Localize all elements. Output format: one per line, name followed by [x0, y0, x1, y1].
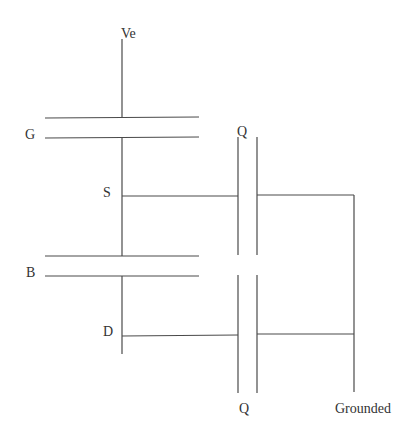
label-grounded: Grounded	[335, 401, 391, 416]
label-g: G	[25, 127, 35, 142]
gate-plate-bottom	[45, 137, 199, 138]
label-q-bottom: Q	[239, 401, 249, 416]
circuit-diagram: Ve G S B D Q Q Grounded	[0, 0, 416, 435]
label-s: S	[103, 185, 111, 200]
label-d: D	[103, 324, 113, 339]
label-b: B	[26, 265, 35, 280]
drain-wire	[122, 335, 238, 336]
label-ve: Ve	[121, 26, 136, 41]
label-q-top: Q	[237, 124, 247, 139]
gate-plate-top	[45, 117, 199, 118]
